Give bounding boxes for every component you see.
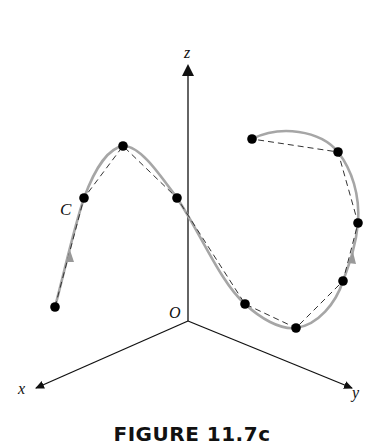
figure-caption: FIGURE 11.7c	[0, 422, 384, 446]
curve-label: C	[60, 200, 72, 219]
polygonal-path	[55, 139, 358, 328]
space-curve-diagram: z x y O C	[0, 0, 384, 448]
curve-c	[55, 131, 358, 328]
point	[353, 218, 363, 228]
point	[50, 302, 60, 312]
point	[291, 323, 301, 333]
point	[240, 299, 250, 309]
y-axis-label: y	[350, 384, 360, 402]
z-axis-label: z	[183, 44, 191, 61]
y-axis	[188, 321, 352, 388]
point	[172, 193, 182, 203]
point	[118, 141, 128, 151]
point	[79, 193, 89, 203]
x-axis	[36, 321, 188, 388]
point	[333, 147, 343, 157]
figure-canvas: z x y O C FIGURE 11.7c	[0, 0, 384, 448]
partition-points	[50, 134, 363, 333]
point	[247, 134, 257, 144]
z-axis-arrow-icon	[182, 64, 194, 76]
point	[338, 276, 348, 286]
x-axis-label: x	[17, 380, 25, 397]
origin-label: O	[169, 304, 181, 321]
